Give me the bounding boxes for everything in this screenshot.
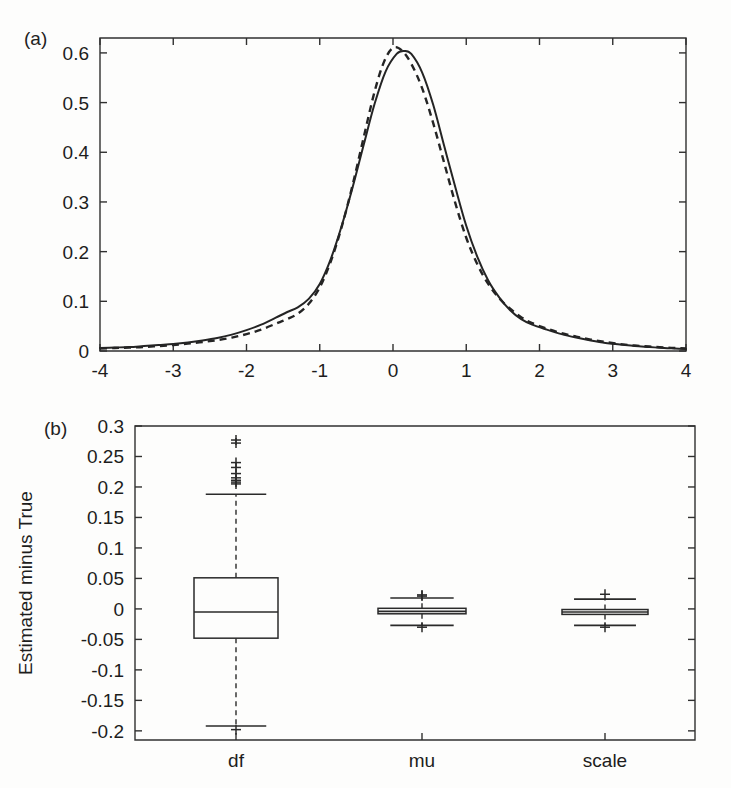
y-tick-label: 0.05	[87, 568, 124, 589]
y-tick-label: 0.2	[98, 477, 124, 498]
y-tick-label: 0.2	[63, 242, 89, 263]
y-tick-label: -0.2	[91, 721, 124, 742]
category-label-mu: mu	[409, 750, 435, 771]
y-tick-label: 0.15	[87, 507, 124, 528]
x-tick-label: -1	[311, 360, 328, 381]
y-tick-label: 0.5	[63, 93, 89, 114]
x-tick-label: 4	[681, 360, 692, 381]
y-tick-label: 0.3	[63, 192, 89, 213]
estimated-density-curve	[100, 51, 686, 349]
panel-b-boxes	[194, 435, 648, 735]
panel-a-plot-box	[100, 38, 686, 351]
y-tick-label: 0.3	[98, 416, 124, 437]
category-label-df: df	[228, 750, 245, 771]
y-tick-label: 0.25	[87, 446, 124, 467]
y-tick-label: 0.1	[63, 291, 89, 312]
y-tick-label: -0.15	[81, 690, 124, 711]
x-tick-label: -2	[238, 360, 255, 381]
panel-a-axes	[100, 38, 686, 351]
x-tick-label: -4	[92, 360, 109, 381]
panel-a-y-ticks: 00.10.20.30.40.50.6	[63, 43, 686, 362]
true-density-curve	[100, 47, 686, 348]
box-iqr	[194, 578, 278, 638]
panel-b-x-ticks: dfmuscale	[228, 733, 627, 771]
y-tick-label: 0	[113, 599, 124, 620]
figure-canvas: (a) (b) 00.10.20.30.40.50.6 -4-3-2-10123…	[0, 0, 731, 788]
x-tick-label: 0	[388, 360, 399, 381]
y-tick-label: 0.1	[98, 538, 124, 559]
y-tick-label: 0.6	[63, 43, 89, 64]
boxplot-group-df	[194, 435, 278, 735]
y-tick-label: 0	[78, 341, 89, 362]
x-tick-label: 3	[607, 360, 618, 381]
x-tick-label: 2	[534, 360, 545, 381]
y-tick-label: 0.4	[63, 142, 90, 163]
category-label-scale: scale	[583, 750, 627, 771]
boxplot-group-scale	[562, 589, 648, 632]
y-tick-label: -0.1	[91, 660, 124, 681]
y-tick-label: -0.05	[81, 629, 124, 650]
panel-b-y-ticks: 0.30.250.20.150.10.050-0.05-0.1-0.15-0.2	[81, 416, 695, 742]
boxplot-panel-b: 0.30.250.20.150.10.050-0.05-0.1-0.15-0.2…	[0, 388, 731, 788]
panel-a-x-ticks: -4-3-2-101234	[92, 38, 692, 381]
panel-b-y-axis-title: Estimated minus True	[15, 491, 36, 675]
boxplot-group-mu	[378, 590, 466, 632]
x-tick-label: 1	[461, 360, 472, 381]
x-tick-label: -3	[165, 360, 182, 381]
panel-b-plot-box	[135, 426, 695, 740]
density-plot-panel-a: 00.10.20.30.40.50.6 -4-3-2-101234	[0, 0, 731, 400]
panel-b-axes	[135, 426, 695, 740]
